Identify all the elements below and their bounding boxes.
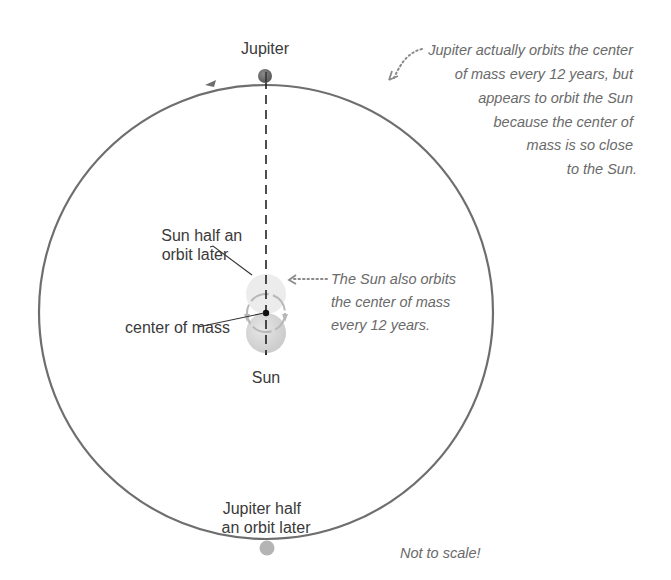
jupiter <box>258 69 272 83</box>
jupiter-label: Jupiter <box>241 40 290 57</box>
orbit-direction-arrow-icon <box>205 80 216 87</box>
jupiter-half-orbit-later <box>260 541 275 556</box>
sun-label: Sun <box>252 369 280 386</box>
sun-half-orbit-label: Sun half an orbit later <box>161 227 246 263</box>
jupiter-half-orbit-label: Jupiter half an orbit later <box>222 500 312 536</box>
sun-orbit-note: The Sun also orbits the center of mass e… <box>331 271 460 333</box>
jupiter-note-dotted-arrow <box>394 49 422 78</box>
not-to-scale-note: Not to scale! <box>400 545 481 561</box>
barycenter-diagram: Jupiter Sun half an orbit later center o… <box>0 0 671 580</box>
jupiter-orbit-note: Jupiter actually orbits the center of ma… <box>427 42 637 177</box>
center-of-mass-label: center of mass <box>125 319 230 336</box>
